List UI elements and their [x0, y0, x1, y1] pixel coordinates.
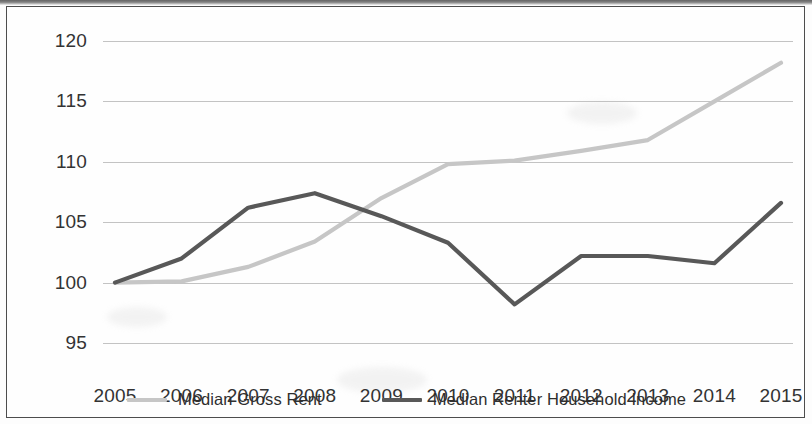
- chart-frame: 95100105110115120 2005200620072008200920…: [6, 6, 805, 418]
- series-line: [115, 63, 781, 283]
- legend-swatch-icon: [382, 398, 422, 402]
- series-line: [115, 193, 781, 304]
- y-axis-tick-label: 110: [56, 151, 87, 173]
- legend-item[interactable]: Median Renter Household Income: [382, 390, 686, 409]
- legend-swatch-icon: [127, 398, 167, 402]
- scan-artifact-band: [0, 0, 812, 5]
- legend-item-label: Median Gross Rent: [178, 390, 322, 409]
- chart-legend: Median Gross RentMedian Renter Household…: [7, 390, 806, 409]
- y-axis-tick-label: 105: [55, 211, 87, 233]
- y-axis-tick-label: 115: [56, 90, 87, 112]
- y-axis-tick-label: 100: [55, 272, 87, 294]
- y-axis-tick-label: 120: [55, 30, 87, 52]
- legend-item[interactable]: Median Gross Rent: [127, 390, 322, 409]
- chart-lines: [103, 41, 793, 343]
- legend-item-label: Median Renter Household Income: [433, 390, 686, 409]
- gridline: [103, 343, 793, 344]
- plot-area: 95100105110115120 2005200620072008200920…: [103, 41, 793, 343]
- y-axis-tick-label: 95: [65, 332, 87, 354]
